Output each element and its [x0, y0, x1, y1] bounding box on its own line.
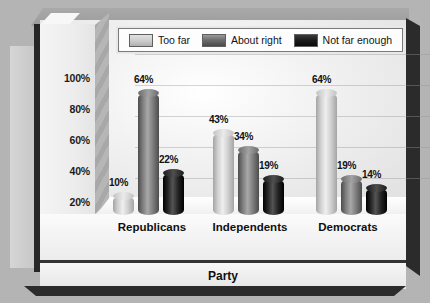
bar-cap — [341, 175, 362, 183]
legend-swatch-not-far-enough — [294, 34, 318, 47]
bar-cap — [113, 192, 134, 200]
bar-cap — [366, 184, 387, 192]
bar-democrats-too-far[interactable] — [316, 93, 337, 215]
bar-group-democrats: 64%19%14% — [312, 24, 396, 215]
bar-value-label: 14% — [362, 169, 381, 180]
y-tick-label-20: 20% — [44, 196, 90, 208]
bar-republicans-about-right[interactable] — [138, 93, 159, 215]
bar-democrats-about-right[interactable] — [341, 179, 362, 215]
category-label-democrats: Democrats — [298, 221, 398, 233]
bar-value-label: 34% — [234, 131, 253, 142]
bar-value-label: 64% — [134, 74, 153, 85]
bar-independents-too-far[interactable] — [213, 133, 234, 215]
bar-group-republicans: 10%64%22% — [109, 24, 193, 215]
bar-republicans-not-far-enough[interactable] — [163, 173, 184, 215]
bar-cap — [213, 129, 234, 137]
bar-value-label: 43% — [209, 114, 228, 125]
bar-independents-not-far-enough[interactable] — [263, 179, 284, 215]
bar-independents-about-right[interactable] — [238, 150, 259, 215]
chart-legend: Too far About right Not far enough — [118, 28, 403, 52]
y-tick-label-40: 40% — [44, 165, 90, 177]
y-tick-label-60: 60% — [44, 134, 90, 146]
axis-wall-depth-face — [95, 13, 109, 214]
bar-cap — [138, 89, 159, 97]
x-axis-title: Party — [208, 269, 238, 283]
legend-swatch-about-right — [202, 34, 226, 47]
legend-label-too-far: Too far — [158, 34, 190, 46]
legend-item-too-far[interactable]: Too far — [129, 34, 190, 47]
bar-cap — [163, 169, 184, 177]
bar-cap — [263, 175, 284, 183]
category-label-independents: Independents — [195, 221, 305, 233]
bar-group-independents: 43%34%19% — [209, 24, 293, 215]
y-tick-label-100: 100% — [44, 72, 90, 84]
bar-democrats-not-far-enough[interactable] — [366, 188, 387, 215]
bar-value-label: 19% — [337, 160, 356, 171]
legend-swatch-too-far — [129, 34, 153, 47]
bar-value-label: 19% — [259, 160, 278, 171]
bars-area: 10%64%22%43%34%19%64%19%14% — [109, 24, 401, 215]
legend-item-not-far-enough[interactable]: Not far enough — [294, 34, 392, 47]
legend-label-not-far-enough: Not far enough — [323, 34, 392, 46]
bar-value-label: 22% — [159, 154, 178, 165]
bar-value-label: 10% — [109, 177, 128, 188]
frame-left-panel — [10, 46, 36, 268]
x-axis-title-band: Party — [40, 260, 406, 289]
bar-cap — [238, 146, 259, 154]
y-tick-label-80: 80% — [44, 103, 90, 115]
category-label-republicans: Republicans — [102, 221, 202, 233]
bar-republicans-too-far[interactable] — [113, 196, 134, 215]
legend-label-about-right: About right — [231, 34, 282, 46]
legend-item-about-right[interactable]: About right — [202, 34, 282, 47]
frame-bottom-bevel — [24, 286, 406, 296]
bar-value-label: 64% — [312, 74, 331, 85]
bar-cap — [316, 89, 337, 97]
chart-container: 100% 80% 60% 40% 20% 0% 10%64%22%43%34%1… — [10, 8, 420, 296]
